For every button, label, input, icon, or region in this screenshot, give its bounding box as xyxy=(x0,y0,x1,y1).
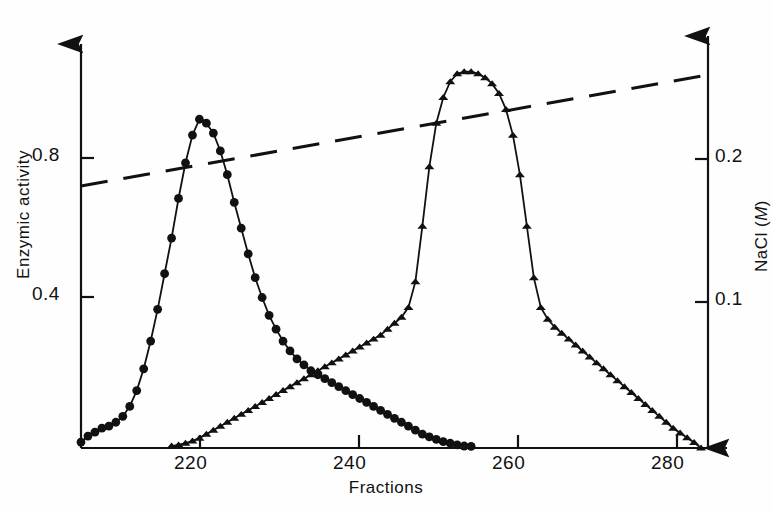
data-point-circle xyxy=(216,147,225,156)
data-point-circle xyxy=(244,250,253,259)
data-point-circle xyxy=(118,412,127,421)
y-axis-left-title: Enzymic activity xyxy=(14,150,34,279)
x-axis-title: Fractions xyxy=(0,478,772,498)
data-point-circle xyxy=(265,311,274,320)
x-tick-label-220: 220 xyxy=(174,452,207,474)
series-line xyxy=(172,72,701,448)
y-axis-right-title-text: NaCl ( xyxy=(752,221,771,272)
axis-lines xyxy=(81,36,727,448)
data-point-triangle xyxy=(438,94,448,100)
data-point-triangle xyxy=(396,314,406,320)
nacl-gradient-line xyxy=(81,75,708,186)
data-point-circle xyxy=(209,129,218,138)
data-point-triangle xyxy=(417,223,427,229)
data-point-triangle xyxy=(403,304,413,310)
data-point-circle xyxy=(272,325,281,334)
data-point-circle xyxy=(279,337,288,346)
data-point-circle xyxy=(111,418,120,427)
series-nacl-gradient xyxy=(81,75,708,186)
y-tick-label-right-0.1: 0.1 xyxy=(715,288,743,310)
data-point-circle xyxy=(251,273,260,282)
y-axis-right-title: NaCl (M) xyxy=(752,200,772,272)
data-point-circle xyxy=(286,347,295,356)
data-point-circle xyxy=(467,442,476,451)
y-tick-label-0.8: 0.8 xyxy=(32,144,60,166)
figure-container: 0.8 0.4 0.2 0.1 220 240 260 280 Enzymic … xyxy=(0,0,772,513)
data-point-circle xyxy=(258,293,267,302)
data-point-circle xyxy=(223,170,232,179)
data-point-triangle xyxy=(529,274,539,280)
y-axis-right-title-molar: M xyxy=(752,206,771,221)
x-tick-label-260: 260 xyxy=(492,452,525,474)
data-point-circle xyxy=(125,402,134,411)
data-point-triangle xyxy=(494,90,504,96)
data-point-triangle xyxy=(550,324,560,330)
data-point-circle xyxy=(202,119,211,128)
y-axis-right-ticks xyxy=(695,159,708,302)
data-point-circle xyxy=(167,234,176,243)
data-point-circle xyxy=(237,224,246,233)
data-point-circle xyxy=(181,158,190,167)
data-point-triangle xyxy=(536,304,546,310)
series-enzymic-peak-2 xyxy=(167,68,706,450)
chart-plot-area xyxy=(0,0,772,513)
y-tick-label-right-0.2: 0.2 xyxy=(715,145,743,167)
y-axis-left-ticks xyxy=(81,158,94,297)
y-axis-right-title-paren: ) xyxy=(752,200,771,206)
data-point-circle xyxy=(139,364,148,373)
data-point-triangle xyxy=(508,132,518,138)
data-point-circle xyxy=(146,337,155,346)
data-point-circle xyxy=(300,360,309,369)
data-point-triangle xyxy=(424,163,434,169)
data-point-circle xyxy=(188,131,197,140)
data-point-circle xyxy=(77,438,86,447)
data-point-circle xyxy=(132,386,141,395)
data-point-triangle xyxy=(522,223,532,229)
data-point-circle xyxy=(160,269,169,278)
data-point-triangle xyxy=(515,171,525,177)
data-point-circle xyxy=(230,198,239,207)
data-point-triangle xyxy=(410,278,420,284)
data-point-circle xyxy=(174,194,183,203)
data-point-triangle xyxy=(445,78,455,84)
x-tick-label-280: 280 xyxy=(651,452,684,474)
data-point-circle xyxy=(153,305,162,314)
data-point-triangle xyxy=(543,316,553,322)
data-point-circle xyxy=(293,354,302,363)
y-tick-label-0.4: 0.4 xyxy=(32,283,60,305)
x-tick-label-240: 240 xyxy=(333,452,366,474)
